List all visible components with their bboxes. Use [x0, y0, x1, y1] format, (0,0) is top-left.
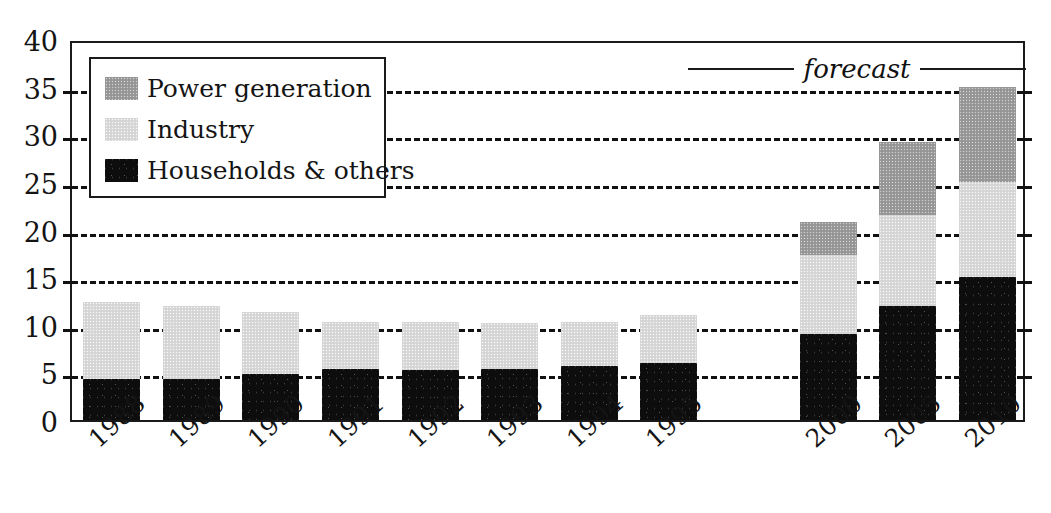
x-axis-tick-label: 1990 [242, 388, 310, 453]
legend-label-industry: Industry [147, 117, 254, 142]
legend-swatch-power-generation [105, 77, 138, 100]
stacked-bar-chart: 4035302520151050 19881989199019911992199… [0, 0, 1051, 513]
forecast-annotation: forecast [688, 56, 1026, 82]
legend-item-power-generation: Power generation [105, 68, 384, 109]
legend-item-industry: Industry [105, 109, 384, 150]
legend: Power generation Industry Households & o… [89, 57, 386, 198]
forecast-rule-left [688, 68, 794, 70]
x-axis-tick-label: 1994 [561, 388, 629, 453]
legend-item-households-others: Households & others [105, 150, 384, 191]
x-axis-tick-label: 1989 [163, 388, 231, 453]
x-axis-tick-label: 2000 [800, 388, 868, 453]
x-axis-tick-label: 1992 [402, 388, 470, 453]
forecast-rule-right [920, 68, 1026, 70]
legend-label-power-generation: Power generation [147, 76, 372, 101]
legend-swatch-industry [105, 118, 138, 141]
forecast-label: forecast [804, 56, 911, 82]
legend-swatch-households-others [105, 159, 138, 182]
x-axis-tick-label: 1993 [481, 388, 549, 453]
x-axis-tick-label: 2005 [879, 388, 947, 453]
x-axis-tick-label: 1991 [322, 388, 390, 453]
x-axis-tick-label: 1995 [640, 388, 708, 453]
x-axis-tick-label: 2010 [959, 388, 1027, 453]
legend-label-households-others: Households & others [147, 158, 414, 183]
x-axis-tick-label: 1988 [83, 388, 151, 453]
